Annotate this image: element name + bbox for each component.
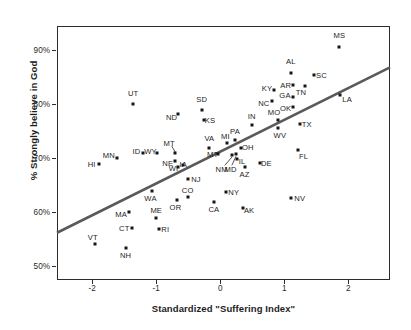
data-point[interactable] <box>187 178 190 181</box>
data-point-label: PA <box>230 127 240 136</box>
data-point[interactable] <box>186 196 189 199</box>
data-point-label: IA <box>179 159 186 168</box>
data-point-label: LA <box>342 94 352 103</box>
data-point[interactable] <box>174 152 177 155</box>
data-point[interactable] <box>250 123 253 126</box>
data-point[interactable] <box>289 72 292 75</box>
data-point[interactable] <box>150 189 153 192</box>
data-point[interactable] <box>115 157 118 160</box>
data-point-label: VT <box>88 233 98 242</box>
y-tick-label: 80% <box>20 100 50 109</box>
data-point-label: ME <box>150 206 162 215</box>
y-tick-label: 70% <box>20 154 50 163</box>
y-tick-mark <box>52 104 56 105</box>
data-point[interactable] <box>132 102 135 105</box>
data-point-label: VA <box>204 134 214 143</box>
x-tick-label: 2 <box>335 284 361 293</box>
data-point-label: KS <box>205 116 215 125</box>
x-axis-title: Standardized "Suffering Index" <box>57 303 390 314</box>
data-point-label: OH <box>242 142 254 151</box>
y-tick-mark <box>52 212 56 213</box>
y-tick-mark <box>52 158 56 159</box>
data-point[interactable] <box>292 84 295 87</box>
data-point-label: WI <box>169 164 179 173</box>
data-point-label: CT <box>119 224 129 233</box>
data-point[interactable] <box>290 196 293 199</box>
x-tick-label: -2 <box>79 284 105 293</box>
data-point-label: KY <box>262 83 272 92</box>
data-point[interactable] <box>212 200 215 203</box>
x-tick-label: -1 <box>143 284 169 293</box>
data-point[interactable] <box>130 227 133 230</box>
data-point-label: GA <box>279 90 290 99</box>
data-point[interactable] <box>97 162 100 165</box>
data-point-label: MT <box>163 138 174 147</box>
data-point-label: IN <box>248 111 256 120</box>
data-point-label: NJ <box>191 175 201 184</box>
x-tick-label: 0 <box>207 284 233 293</box>
data-point-label: WA <box>144 193 156 202</box>
data-point[interactable] <box>291 105 294 108</box>
data-point-label: NY <box>228 188 239 197</box>
scatter-chart-figure: % Strongly believe in God Standardized "… <box>0 0 411 330</box>
data-point-label: WY <box>144 146 157 155</box>
data-point-label: AL <box>286 57 296 66</box>
data-point[interactable] <box>312 74 315 77</box>
data-point[interactable] <box>270 100 273 103</box>
y-tick-mark <box>52 50 56 51</box>
data-point[interactable] <box>200 109 203 112</box>
data-point-label: NC <box>258 98 269 107</box>
data-point[interactable] <box>127 211 130 214</box>
data-point[interactable] <box>141 152 144 155</box>
data-point[interactable] <box>243 165 246 168</box>
data-point[interactable] <box>291 95 294 98</box>
data-point[interactable] <box>155 216 158 219</box>
data-point-label: OR <box>170 202 182 211</box>
data-point-label: TN <box>296 87 306 96</box>
data-point-label: ID <box>132 146 140 155</box>
data-point[interactable] <box>234 139 237 142</box>
x-tick-mark <box>284 280 285 284</box>
y-tick-label: 50% <box>20 262 50 271</box>
data-point[interactable] <box>235 153 238 156</box>
data-point-label: MN <box>103 151 115 160</box>
data-point-label: TX <box>302 120 312 129</box>
data-point-label: ND <box>166 112 177 121</box>
data-point-label: AR <box>280 81 291 90</box>
data-point-label: NV <box>294 193 305 202</box>
data-point-label: OK <box>280 103 291 112</box>
data-point-label: AK <box>244 206 254 215</box>
data-point-label: MA <box>115 209 127 218</box>
x-tick-mark <box>220 280 221 284</box>
data-point-label: SC <box>316 71 327 80</box>
data-point-label: MT <box>207 149 218 158</box>
data-point-label: MS <box>334 30 346 39</box>
data-point[interactable] <box>276 119 279 122</box>
data-point-label: DE <box>261 159 272 168</box>
data-point-label: NM <box>216 164 228 173</box>
x-tick-label: 1 <box>271 284 297 293</box>
data-point[interactable] <box>225 191 228 194</box>
data-point[interactable] <box>273 88 276 91</box>
y-tick-mark <box>52 266 56 267</box>
data-point[interactable] <box>93 243 96 246</box>
data-point[interactable] <box>338 46 341 49</box>
data-point[interactable] <box>157 227 160 230</box>
data-point[interactable] <box>225 142 228 145</box>
data-point-label: AZ <box>240 169 250 178</box>
data-point[interactable] <box>173 160 176 163</box>
y-tick-label: 60% <box>20 208 50 217</box>
data-point[interactable] <box>339 93 342 96</box>
data-point-label: SD <box>196 94 207 103</box>
data-point[interactable] <box>124 246 127 249</box>
data-point-label: WV <box>274 130 287 139</box>
x-tick-mark <box>348 280 349 284</box>
data-point-label: CO <box>182 186 194 195</box>
y-tick-label: 90% <box>20 46 50 55</box>
y-axis-title: % Strongly believe in God <box>28 36 39 206</box>
data-point-label: CA <box>208 205 219 214</box>
x-tick-mark <box>92 280 93 284</box>
data-point-label: NH <box>120 251 131 260</box>
data-point-label: MI <box>221 131 230 140</box>
data-point[interactable] <box>231 153 234 156</box>
